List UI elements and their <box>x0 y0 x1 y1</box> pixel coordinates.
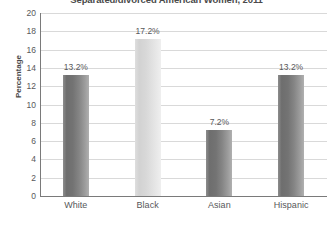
bar-value-label: 17.2% <box>136 26 160 36</box>
x-axis-category-label: White <box>64 200 87 210</box>
bar-value-label: 7.2% <box>210 117 229 127</box>
gridline <box>40 196 327 197</box>
y-axis-tick-label: 16 <box>14 45 36 55</box>
bar-value-label: 13.2% <box>64 62 88 72</box>
y-axis-tick-label: 18 <box>14 26 36 36</box>
y-axis-tick-label: 4 <box>14 154 36 164</box>
bar[interactable] <box>63 75 89 196</box>
y-axis-tick-label: 10 <box>14 100 36 110</box>
bar-slot: 17.2% <box>112 13 184 196</box>
plot-area: 13.2%17.2%7.2%13.2% <box>40 13 327 196</box>
x-axis-category-labels: WhiteBlackAsianHispanic <box>40 200 327 216</box>
chart-title: Separated/divorced American Women, 2011 <box>0 0 333 5</box>
bar-slot: 7.2% <box>184 13 256 196</box>
bar-value-label: 13.2% <box>279 62 303 72</box>
bar[interactable] <box>278 75 304 196</box>
y-axis-tick-label: 20 <box>14 8 36 18</box>
bar[interactable] <box>206 130 232 196</box>
x-axis-category-label: Asian <box>208 200 231 210</box>
y-axis-tick-label: 14 <box>14 63 36 73</box>
bar-slot: 13.2% <box>40 13 112 196</box>
x-axis-category-label: Black <box>137 200 159 210</box>
bar-slot: 13.2% <box>255 13 327 196</box>
bar-chart: Separated/divorced American Women, 2011 … <box>0 0 333 226</box>
y-axis-tick-label: 2 <box>14 173 36 183</box>
y-axis-tick-label: 12 <box>14 81 36 91</box>
y-axis-tick-label: 6 <box>14 136 36 146</box>
y-axis-tick-label: 8 <box>14 118 36 128</box>
y-axis-tick-labels: 02468101214161820 <box>12 13 36 196</box>
bar-series: 13.2%17.2%7.2%13.2% <box>40 13 327 196</box>
y-axis-tick-label: 0 <box>14 191 36 201</box>
bar[interactable] <box>135 39 161 196</box>
x-axis-category-label: Hispanic <box>274 200 309 210</box>
